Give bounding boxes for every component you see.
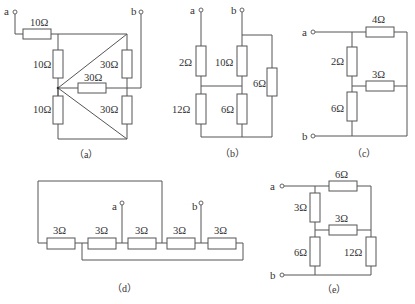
resistor-b-a-upper <box>196 46 206 76</box>
resistor-c-middle <box>366 81 394 91</box>
terminal-c-a <box>311 30 315 34</box>
terminal-c-b <box>311 134 315 138</box>
label-e-right: 12Ω <box>344 247 363 258</box>
resistor-a-top <box>23 29 51 39</box>
label-d-3: 3Ω <box>135 225 148 236</box>
label-a-middle: 30Ω <box>84 72 103 83</box>
terminal-label-a: a <box>4 5 9 17</box>
terminal-d-b <box>199 201 203 205</box>
terminal-a-a <box>13 10 17 14</box>
terminal-e-a <box>280 184 284 188</box>
label-e-top: 6Ω <box>335 169 348 180</box>
terminal-label-b: b <box>270 269 276 281</box>
label-a-left-lower: 10Ω <box>33 104 52 115</box>
resistor-b-b-lower <box>237 94 247 124</box>
label-b-right: 6Ω <box>253 78 266 89</box>
caption-b: （b） <box>220 148 245 159</box>
label-c-left-lower: 6Ω <box>331 103 344 114</box>
label-a-top: 10Ω <box>30 17 49 28</box>
terminal-label-b: b <box>192 200 198 212</box>
label-d-5: 3Ω <box>214 225 227 236</box>
label-b-a-lower: 12Ω <box>172 104 191 115</box>
terminal-label-a: a <box>112 200 117 212</box>
caption-c: （c） <box>352 148 376 159</box>
resistor-e-top <box>329 181 357 191</box>
terminal-a-b <box>139 10 143 14</box>
resistor-c-left-upper <box>347 47 357 76</box>
label-b-b-upper: 10Ω <box>215 57 234 68</box>
resistor-d-5 <box>208 238 236 249</box>
label-a-right-upper: 30Ω <box>100 59 119 70</box>
circuit-figure: a b 10Ω 10Ω 10Ω 30Ω 30Ω 30Ω （a） a b 2Ω 1… <box>0 0 415 304</box>
subfigure-a: a b 10Ω 10Ω 10Ω 30Ω 30Ω 30Ω （a） <box>4 5 143 160</box>
label-a-right-lower: 30Ω <box>100 104 119 115</box>
terminal-d-a <box>120 201 124 205</box>
resistor-c-left-lower <box>347 92 357 121</box>
terminal-e-b <box>280 273 284 277</box>
caption-d: （d） <box>112 283 137 294</box>
label-c-middle: 3Ω <box>372 69 385 80</box>
label-a-left-upper: 10Ω <box>33 59 52 70</box>
label-b-b-lower: 6Ω <box>221 104 234 115</box>
resistor-d-2 <box>88 238 116 249</box>
terminal-label-a: a <box>302 26 307 38</box>
terminal-b-b <box>240 8 244 12</box>
subfigure-c: a b 4Ω 2Ω 3Ω 6Ω （c） <box>302 14 407 159</box>
resistor-b-b-upper <box>237 46 247 76</box>
resistor-a-left-upper <box>53 50 63 78</box>
resistor-a-middle <box>78 83 106 93</box>
label-d-1: 3Ω <box>53 225 66 236</box>
resistor-e-left-lower <box>310 237 320 266</box>
resistor-e-left-upper <box>310 193 320 222</box>
label-b-a-upper: 2Ω <box>179 57 192 68</box>
resistor-a-left-lower <box>53 96 63 124</box>
terminal-label-a: a <box>270 180 275 192</box>
terminal-b-a <box>199 8 203 12</box>
resistor-b-a-lower <box>196 94 206 124</box>
resistor-e-middle <box>329 225 357 235</box>
caption-e: （e） <box>322 284 346 295</box>
label-d-2: 3Ω <box>95 225 108 236</box>
resistor-d-3 <box>128 238 156 249</box>
resistor-a-right-lower <box>122 96 132 124</box>
subfigure-d: a b 3Ω 3Ω 3Ω 3Ω 3Ω （d） <box>38 181 243 294</box>
label-e-left-upper: 3Ω <box>294 202 307 213</box>
terminal-label-b: b <box>231 4 237 16</box>
caption-a: （a） <box>74 149 98 160</box>
terminal-label-b: b <box>131 5 137 17</box>
subfigure-b: a b 2Ω 12Ω 10Ω 6Ω 6Ω （b） <box>172 4 277 159</box>
label-e-middle: 3Ω <box>335 213 348 224</box>
label-c-top: 4Ω <box>372 14 385 25</box>
resistor-a-right-upper <box>122 50 132 78</box>
resistor-c-top <box>366 27 394 37</box>
resistor-d-4 <box>167 238 195 249</box>
label-d-4: 3Ω <box>173 225 186 236</box>
subfigure-e: a b 6Ω 3Ω 3Ω 6Ω 12Ω （e） <box>270 169 376 295</box>
terminal-label-b: b <box>302 130 308 142</box>
label-c-left-upper: 2Ω <box>331 56 344 67</box>
resistor-e-right <box>366 237 376 266</box>
resistor-d-1 <box>47 238 75 249</box>
label-e-left-lower: 6Ω <box>294 247 307 258</box>
terminal-label-a: a <box>190 4 195 16</box>
resistor-b-right <box>267 68 277 96</box>
